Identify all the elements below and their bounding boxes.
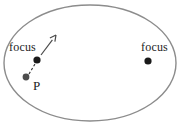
focus-left-label: focus [9, 41, 36, 53]
diagram-canvas [0, 0, 182, 132]
direction-arrow [41, 35, 56, 55]
direction-arrow-head [50, 35, 56, 42]
direction-arrow-shaft [41, 40, 52, 55]
focus-right-label: focus [141, 41, 168, 53]
ellipse-diagram: focus focus P [0, 0, 182, 132]
focus-left-dot [33, 56, 40, 63]
point-p-label: P [33, 79, 40, 92]
dashed-line-p-to-focus [29, 64, 35, 74]
point-p-dot [23, 74, 30, 81]
focus-right-dot [144, 57, 151, 64]
